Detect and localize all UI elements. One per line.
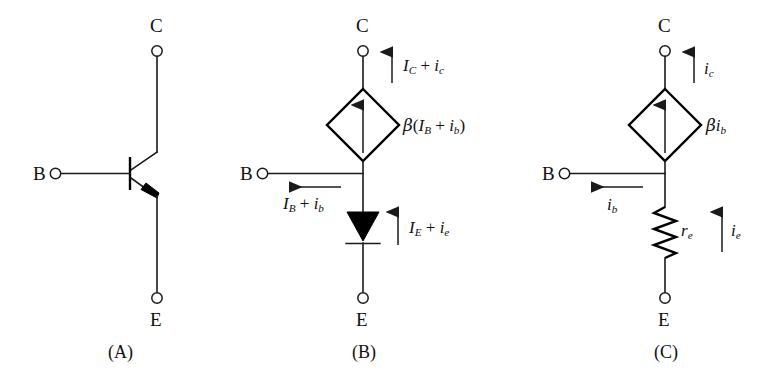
panel-c-emitter-current-label: ie: [731, 222, 741, 239]
panel-c-caption: (C): [654, 343, 678, 361]
panel-c-base-current-label: ib: [607, 196, 617, 213]
panel-c-collector-current-label: ic: [704, 60, 714, 77]
panel-b-base-label: B: [240, 164, 253, 183]
panel-b-source-expression-label: β(IB + ib): [403, 117, 465, 134]
figure-canvas: C B E (A) C B E (B) IC + ic β(IB + ib) I…: [0, 0, 782, 386]
panel-b-emitter-terminal[interactable]: [358, 293, 368, 303]
panel-a-base-label: B: [33, 164, 46, 183]
panel-c-graphics: [559, 46, 722, 303]
panel-b-collector-terminal[interactable]: [358, 46, 368, 56]
panel-b-emitter-label: E: [356, 310, 368, 329]
panel-b-collector-current-label: IC + ic: [403, 57, 444, 74]
panel-b-graphics: [257, 46, 399, 303]
panel-b-base-terminal[interactable]: [257, 168, 267, 178]
panel-b-caption: (B): [352, 343, 376, 361]
panel-c-emitter-resistor[interactable]: [654, 207, 676, 258]
panel-c-collector-label: C: [658, 16, 671, 35]
panel-a-emitter-terminal[interactable]: [152, 293, 162, 303]
panel-c-source-expression-label: βib: [706, 117, 726, 134]
panel-b-diode-triangle[interactable]: [347, 212, 379, 241]
panel-c-base-terminal[interactable]: [559, 168, 569, 178]
panel-b-base-current-label: IB + ib: [283, 195, 324, 212]
panel-a-emitter-label: E: [150, 310, 162, 329]
panel-a-graphics: [50, 46, 162, 303]
panel-b-emitter-current-label: IE + ie: [409, 219, 449, 236]
panel-c-resistor-label: re: [681, 222, 693, 239]
panel-a-collector-terminal[interactable]: [152, 46, 162, 56]
panel-c-collector-terminal[interactable]: [660, 46, 670, 56]
panel-c-emitter-terminal[interactable]: [660, 293, 670, 303]
panel-b-collector-label: C: [356, 16, 369, 35]
panel-c-base-label: B: [542, 164, 555, 183]
panel-c-emitter-label: E: [658, 310, 670, 329]
panel-a-base-terminal[interactable]: [50, 168, 60, 178]
panel-a-collector-slant: [131, 152, 157, 170]
panel-a-collector-label: C: [150, 16, 163, 35]
panel-a-caption: (A): [108, 343, 133, 361]
